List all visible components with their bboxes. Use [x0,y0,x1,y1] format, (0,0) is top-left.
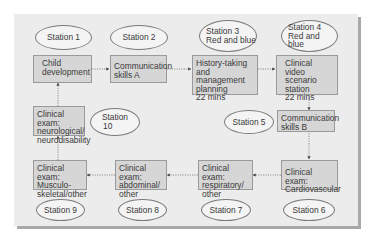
station-label: Station 8 [126,206,159,215]
station-label: Station 9 [44,206,77,215]
station-label: Station 1 [47,33,80,42]
cardiovascular-box: Clinical exam: Cardiovascular [281,160,338,190]
station-label: Station 5 [232,118,265,127]
station-label: Station 2 [122,33,155,42]
box-text: skeletal/other [37,190,83,199]
box-text: History-taking and [196,59,254,76]
box-text: neurodisability [37,136,81,145]
box-text: skills A [114,71,163,80]
box-text: 22 mins [285,93,334,102]
box-text: Clinical exam: [37,110,81,127]
neurological-box: Clinical exam: neurological/ neurodisabi… [33,106,85,136]
station-4-ellipse: Station 4 Red and blue [281,20,338,52]
respiratory-box: Clinical exam: respiratory/ other [198,160,253,190]
station-5-ellipse: Station 5 [224,110,274,134]
station-3-ellipse: Station 3 Red and blue [199,20,257,52]
box-text: 22 mins [196,93,254,102]
station-label: Station 7 [209,206,242,215]
station-9-ellipse: Station 9 [36,199,85,221]
station-sublabel: Red and blue [288,32,337,49]
child-development-box: Child development [33,55,92,83]
box-text: Clinical exam: [202,164,249,181]
box-text: other [202,190,249,199]
box-text: Clinical video [285,59,334,76]
station-7-ellipse: Station 7 [201,199,251,221]
communication-skills-a-box: Communication skills A [110,55,167,83]
station-2-ellipse: Station 2 [110,25,168,50]
station-1-ellipse: Station 1 [35,25,92,50]
history-taking-box: History-taking and management planning 2… [192,55,258,95]
box-text: other [119,190,163,199]
station-10-ellipse: Station 10 [90,108,140,136]
station-label: Station 6 [292,206,325,215]
box-text: skills B [281,123,331,132]
abdominal-box: Clinical exam: abdominal/ other [115,160,167,190]
communication-skills-b-box: Communication skills B [277,110,335,132]
station-6-ellipse: Station 6 [283,199,335,221]
box-text: Clinical exam: [119,164,163,181]
station-sublabel: Red and blue [206,36,256,45]
musculoskeletal-box: Clinical exam: Musculo- skeletal/other [33,160,87,190]
clinical-video-box: Clinical video scenario station 22 mins [276,55,338,95]
box-text: development [42,68,88,77]
box-text: Clinical exam: [285,168,334,185]
box-text: Cardiovascular [285,185,334,194]
station-sublabel: 10 [91,122,112,131]
box-text: Clinical exam: [37,164,83,181]
station-8-ellipse: Station 8 [118,199,167,221]
